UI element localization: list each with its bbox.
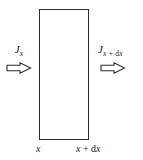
control-volume-rectangle: [39, 9, 89, 140]
flux-out-annotation: Jx + dx: [98, 44, 143, 77]
flux-in-label: Jx: [15, 44, 24, 58]
hollow-right-arrow-icon: [6, 61, 32, 77]
flux-control-volume-figure: Jx Jx + dx x x + dx: [0, 0, 143, 160]
left-position-label: x: [36, 143, 40, 154]
flux-out-subscript-operator: +: [107, 49, 116, 58]
flux-out-subscript-differential-var: x: [119, 49, 123, 58]
right-position-label: x + dx: [76, 143, 101, 154]
hollow-right-arrow-icon: [100, 61, 126, 77]
flux-out-label: Jx + dx: [98, 44, 123, 58]
left-position-value: x: [36, 143, 40, 154]
flux-in-annotation: Jx: [1, 44, 37, 77]
right-position-differential-var: x: [96, 143, 100, 154]
right-position-operator: +: [80, 143, 91, 154]
flux-out-subscript: x + dx: [103, 49, 123, 58]
flux-in-subscript: x: [20, 49, 24, 58]
